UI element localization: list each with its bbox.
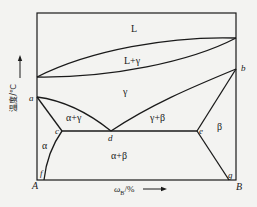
alpha-solvus-lower xyxy=(44,131,62,180)
phase-diagram xyxy=(0,0,257,207)
region-beta: β xyxy=(217,122,222,132)
y-axis-arrow-icon xyxy=(18,55,22,61)
point-b-label: b xyxy=(241,63,246,73)
region-alpha-gamma: α+γ xyxy=(66,113,81,123)
corner-B-label: B xyxy=(236,182,242,192)
region-liquid-gamma: L+γ xyxy=(124,56,140,66)
point-c-label: c xyxy=(55,126,59,136)
point-d-label: d xyxy=(108,133,113,143)
x-axis-label: ωB/% xyxy=(114,184,134,196)
point-g-label: g xyxy=(228,170,233,180)
corner-A-label: A xyxy=(32,181,38,191)
region-liquid: L xyxy=(131,24,137,34)
x-axis-label-unit: /% xyxy=(124,184,134,194)
point-e-label: e xyxy=(199,126,203,136)
point-f-label: f xyxy=(40,168,43,178)
region-alpha: α xyxy=(42,141,47,151)
region-gamma-beta: γ+β xyxy=(150,113,165,123)
point-a-label: a xyxy=(29,93,34,103)
region-gamma: γ xyxy=(123,87,127,97)
beta-solvus-lower xyxy=(197,131,229,180)
region-alpha-beta: α+β xyxy=(111,151,127,161)
y-axis-label: 温度/℃ xyxy=(7,84,18,112)
x-axis-arrow-icon xyxy=(161,187,167,191)
